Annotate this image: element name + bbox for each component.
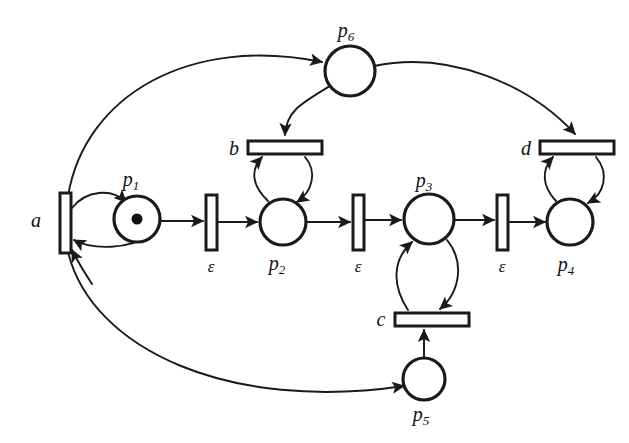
- place-p2[interactable]: [260, 199, 306, 245]
- label-p2: p2: [267, 252, 286, 277]
- place-p6[interactable]: [325, 46, 375, 96]
- label-p3: p3: [414, 169, 433, 194]
- arc-a-to-p6: [68, 56, 322, 196]
- token-p1: [132, 214, 143, 225]
- label-a: a: [31, 209, 41, 231]
- place-p3[interactable]: [404, 194, 454, 244]
- arc-p6-to-d: [374, 62, 575, 134]
- petri-net-canvas: a b c d ε ε ε p1 p2 p3 p4 p5 p6: [0, 0, 629, 443]
- arc-c-to-p3: [396, 242, 412, 310]
- arc-p3-to-c: [440, 240, 458, 309]
- arc-p2-to-b: [254, 157, 268, 201]
- transition-d[interactable]: [540, 141, 614, 154]
- petri-net-diagram: a b c d ε ε ε p1 p2 p3 p4 p5 p6: [0, 0, 629, 443]
- label-epsilon-3: ε: [499, 257, 506, 276]
- transition-epsilon-3[interactable]: [497, 195, 508, 250]
- transition-epsilon-2[interactable]: [353, 195, 364, 250]
- transition-epsilon-1[interactable]: [206, 195, 217, 250]
- arc-p4-to-d: [545, 157, 556, 201]
- transition-c[interactable]: [395, 313, 469, 326]
- arc-a-to-p5: [68, 252, 404, 392]
- label-epsilon-2: ε: [355, 257, 362, 276]
- arc-p6-to-b: [285, 86, 330, 135]
- label-epsilon-1: ε: [208, 257, 215, 276]
- arc-b-to-p2: [297, 157, 312, 202]
- label-c: c: [377, 308, 386, 330]
- arc-d-to-p4: [588, 157, 604, 203]
- label-p5: p5: [411, 403, 430, 428]
- place-p4[interactable]: [547, 199, 593, 245]
- transition-b[interactable]: [248, 141, 322, 154]
- label-b: b: [229, 137, 239, 159]
- arc-return-into-a: [72, 250, 92, 284]
- transition-a[interactable]: [60, 193, 71, 253]
- label-d: d: [521, 137, 532, 159]
- label-p4: p4: [556, 253, 575, 278]
- label-p6: p6: [336, 19, 355, 44]
- label-p1: p1: [121, 168, 140, 193]
- place-p5[interactable]: [403, 358, 445, 400]
